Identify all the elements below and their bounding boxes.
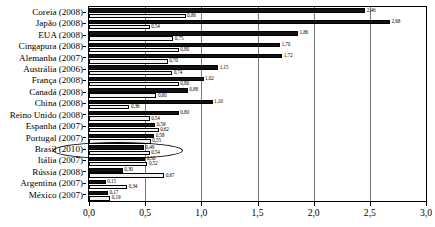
bar-dark: [89, 8, 365, 12]
bar-row: 0,300,67: [89, 167, 426, 178]
bar-row: 1,150,74: [89, 64, 426, 75]
bar-value-dark: 1,10: [214, 99, 223, 104]
bar-row: 1,720,70: [89, 53, 426, 64]
horizontal-bar-chart: Coreia (2008)Japão (2008)EUA (2008)Cinga…: [0, 0, 435, 227]
x-axis-tick: [258, 202, 259, 206]
bar-row: 0,500,52: [89, 155, 426, 166]
bar-value-dark: 1,72: [284, 53, 293, 58]
bar-row: 0,880,60: [89, 87, 426, 98]
bar-dark: [89, 31, 298, 35]
bar-light: [89, 82, 179, 86]
y-axis-tick: [83, 126, 86, 127]
bar-value-light: 0,54: [151, 116, 160, 121]
x-axis-tick-label: 2,0: [308, 207, 320, 218]
bar-value-light: 0,74: [174, 70, 183, 75]
bar-dark: [89, 65, 218, 69]
bar-value-light: 0,19: [112, 195, 121, 200]
bar-row: 1,100,36: [89, 98, 426, 109]
y-axis-tick: [83, 114, 86, 115]
y-axis-tick: [83, 160, 86, 161]
bar-row: 0,170,19: [89, 190, 426, 201]
bar-light: [89, 151, 150, 155]
bar-light: [89, 14, 186, 18]
y-axis-tick: [83, 57, 86, 58]
bar-row: 0,150,34: [89, 178, 426, 189]
bar-value-dark: 0,88: [189, 87, 198, 92]
y-axis-tick: [83, 103, 86, 104]
bar-value-dark: 1,15: [220, 65, 229, 70]
x-axis-tick-label: 3,0: [420, 207, 432, 218]
bar-row: 0,490,54: [89, 144, 426, 155]
bar-value-dark: 2,68: [392, 19, 401, 24]
bar-row: 0,580,55: [89, 133, 426, 144]
bar-row: 2,680,54: [89, 18, 426, 29]
bar-value-dark: 0,80: [180, 110, 189, 115]
y-axis-tick: [83, 12, 86, 13]
bar-light: [89, 93, 156, 97]
bar-light: [89, 139, 151, 143]
y-axis-tick: [83, 171, 86, 172]
bar-dark: [89, 88, 188, 92]
bar-light: [89, 59, 168, 63]
y-axis-tick: [83, 137, 86, 138]
bar-rows: 2,460,862,680,541,860,751,700,801,720,70…: [89, 7, 426, 201]
bar-light: [89, 196, 110, 200]
bar-light: [89, 116, 150, 120]
bar-value-dark: 0,30: [124, 167, 133, 172]
y-axis-tick: [83, 194, 86, 195]
y-axis-tick: [83, 35, 86, 36]
bar-value-dark: 2,46: [367, 8, 376, 13]
bar-light: [89, 173, 164, 177]
bar-light: [89, 25, 150, 29]
y-axis-tick: [83, 92, 86, 93]
bar-value-dark: 1,86: [299, 30, 308, 35]
bar-value-light: 0,55: [152, 138, 161, 143]
bar-row: 2,460,86: [89, 7, 426, 18]
x-axis-tick: [314, 202, 315, 206]
bar-dark: [89, 168, 123, 172]
x-axis-tick: [89, 202, 90, 206]
bar-light: [89, 105, 129, 109]
bar-value-light: 0,75: [175, 36, 184, 41]
y-axis-tick: [83, 23, 86, 24]
plot-area: 2,460,862,680,541,860,751,700,801,720,70…: [88, 6, 427, 202]
y-axis-tick: [83, 149, 86, 150]
bar-value-light: 0,54: [151, 24, 160, 29]
y-axis-tick: [83, 80, 86, 81]
bar-row: 0,800,54: [89, 110, 426, 121]
bar-dark: [89, 20, 390, 24]
y-axis-tick: [83, 183, 86, 184]
x-axis-tick-label: 1,5: [252, 207, 264, 218]
bar-dark: [89, 134, 154, 138]
x-axis: 0,00,51,01,52,02,53,0: [88, 202, 427, 226]
bar-value-light: 0,80: [180, 47, 189, 52]
y-axis-category-labels: Coreia (2008)Japão (2008)EUA (2008)Cinga…: [0, 6, 86, 202]
bar-dark: [89, 111, 179, 115]
bar-light: [89, 71, 172, 75]
y-axis-label: México (2007): [29, 189, 83, 202]
bar-value-dark: 1,70: [281, 42, 290, 47]
bar-row: 1,860,75: [89, 30, 426, 41]
bar-light: [89, 36, 173, 40]
bar-light: [89, 48, 179, 52]
x-axis-tick: [370, 202, 371, 206]
bar-value-light: 0,34: [129, 184, 138, 189]
bar-value-dark: 1,02: [205, 76, 214, 81]
y-axis-tick: [83, 46, 86, 47]
bar-dark: [89, 191, 108, 195]
bar-value-light: 0,80: [180, 81, 189, 86]
bar-dark: [89, 157, 145, 161]
bar-light: [89, 185, 127, 189]
bar-value-light: 0,36: [131, 104, 140, 109]
bar-row: 1,700,80: [89, 41, 426, 52]
bar-dark: [89, 180, 106, 184]
x-axis-tick: [145, 202, 146, 206]
x-axis-tick-label: 1,0: [195, 207, 207, 218]
bar-dark: [89, 145, 144, 149]
bar-row: 1,020,80: [89, 75, 426, 86]
bar-value-light: 0,60: [158, 93, 167, 98]
x-axis-tick-label: 0,5: [139, 207, 151, 218]
bar-dark: [89, 123, 155, 127]
bar-light: [89, 128, 159, 132]
bar-dark: [89, 100, 213, 104]
